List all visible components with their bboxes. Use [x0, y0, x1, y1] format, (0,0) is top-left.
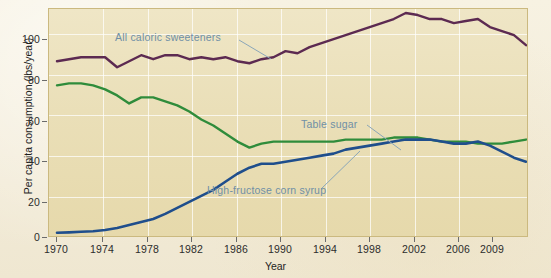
y-tick-mark-0 — [42, 237, 47, 238]
y-tick-mark-40 — [42, 161, 47, 162]
annotation-high-fructose-corn-syrup: High-fructose corn syrup — [207, 184, 326, 196]
x-tick-label-1974: 1974 — [77, 243, 127, 255]
x-tick-mark-1994 — [325, 237, 326, 242]
x-tick-label-1998: 1998 — [344, 243, 394, 255]
x-tick-mark-1970 — [56, 237, 57, 242]
x-tick-mark-2006 — [458, 237, 459, 242]
y-tick-mark-80 — [42, 80, 47, 81]
x-tick-label-1978: 1978 — [122, 243, 172, 255]
x-tick-mark-1982 — [191, 237, 192, 242]
y-tick-label-0: 0 — [8, 231, 40, 243]
x-tick-label-1970: 1970 — [31, 243, 81, 255]
annotation-all-caloric-sweeteners: All caloric sweeteners — [115, 31, 221, 43]
x-tick-mark-1990 — [280, 237, 281, 242]
leader-line-table-sugar — [367, 125, 401, 150]
x-tick-label-1986: 1986 — [211, 243, 261, 255]
y-tick-mark-100 — [42, 39, 47, 40]
y-tick-label-60: 60 — [8, 115, 40, 127]
y-tick-mark-20 — [42, 202, 47, 203]
leader-line-all-caloric-sweeteners — [239, 40, 271, 59]
x-tick-mark-1998 — [369, 237, 370, 242]
x-tick-label-1990: 1990 — [255, 243, 305, 255]
x-tick-label-1994: 1994 — [300, 243, 350, 255]
x-tick-mark-1978 — [147, 237, 148, 242]
y-tick-label-100: 100 — [8, 33, 40, 45]
x-axis-title: Year — [0, 260, 551, 272]
plot-area: All caloric sweeteners Table sugar High-… — [48, 8, 528, 237]
y-tick-mark-60 — [42, 121, 47, 122]
y-tick-label-20: 20 — [8, 196, 40, 208]
x-tick-mark-2002 — [414, 237, 415, 242]
annotation-table-sugar: Table sugar — [301, 118, 357, 130]
x-tick-mark-2009 — [492, 237, 493, 242]
annotation-leader-lines — [49, 9, 528, 237]
x-tick-mark-1986 — [236, 237, 237, 242]
x-tick-mark-1974 — [102, 237, 103, 242]
leader-line-high-fructose-corn-syrup — [321, 151, 360, 189]
x-tick-label-1982: 1982 — [166, 243, 216, 255]
x-tick-label-2002: 2002 — [389, 243, 439, 255]
chart-figure: Per capita consumption (lbs/year) 100 80… — [0, 0, 551, 278]
y-tick-label-80: 80 — [8, 74, 40, 86]
y-tick-label-40: 40 — [8, 155, 40, 167]
x-tick-label-2009: 2009 — [467, 243, 517, 255]
